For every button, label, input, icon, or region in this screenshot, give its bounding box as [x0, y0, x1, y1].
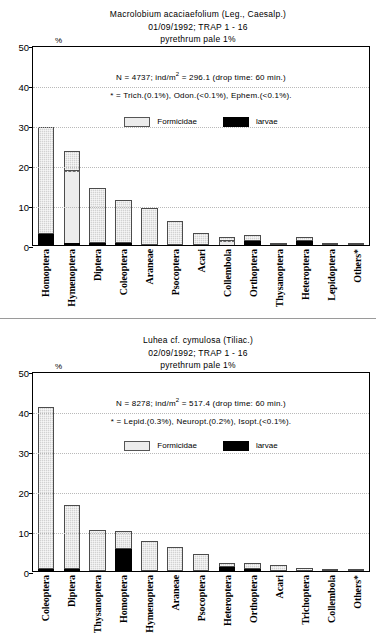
formicidae-swatch-icon	[124, 117, 150, 127]
x-axis-tick-label: Lepidoptera	[326, 249, 337, 301]
x-axis-label-slot: Hymenoptera	[58, 246, 84, 330]
bar-psocoptera[interactable]	[167, 221, 184, 245]
x-axis-tick-label: Diptera	[92, 249, 103, 281]
bar-segment-other	[64, 505, 81, 568]
panel-1-title-line-2: 01/09/1992; TRAP 1 - 16	[20, 21, 376, 34]
bar-segment-other	[322, 569, 339, 571]
legend-label-larvae: larvae	[256, 117, 278, 126]
panel-2-plot-area: % N = 8278; ind/m2 = 517.4 (drop time: 6…	[32, 372, 370, 572]
x-axis-tick-label: Heteroptera	[222, 575, 233, 626]
bar-orthoptera[interactable]	[244, 563, 261, 571]
legend-item-larvae: larvae	[223, 117, 278, 127]
panel-2-x-axis-labels: ColeopteraDipteraThysanopteraHomopteraHy…	[32, 572, 370, 634]
x-axis-tick-label: Homoptera	[40, 249, 51, 297]
panel-2-title-line-3: pyrethrum pale 1%	[20, 359, 376, 372]
y-axis-tick-mark	[29, 167, 33, 168]
bar-psocoptera[interactable]	[193, 554, 210, 571]
y-axis-tick-mark	[29, 373, 33, 374]
y-axis-tick-label: 10	[18, 201, 29, 212]
bar-segment-other	[89, 530, 106, 571]
gridline	[33, 127, 369, 128]
bar-diptera[interactable]	[64, 505, 81, 570]
bar-thysanoptera[interactable]	[270, 243, 287, 245]
chart-panel-luhea: Luhea cf. cymulosa (Tiliac.) 02/09/1992;…	[0, 330, 376, 634]
bar-segment-other	[38, 127, 55, 235]
bar-diptera[interactable]	[89, 188, 106, 244]
y-axis-tick-label: 50	[18, 41, 29, 52]
bar-collembola[interactable]	[219, 237, 236, 245]
bar-thysanoptera[interactable]	[89, 530, 106, 571]
y-axis-tick-label: 30	[18, 447, 29, 458]
bar-araneae[interactable]	[167, 547, 184, 571]
x-axis-tick-label: Homoptera	[118, 575, 129, 623]
y-axis-tick-mark	[29, 87, 33, 88]
bar-segment-other	[167, 547, 184, 571]
bar-heteroptera[interactable]	[296, 237, 313, 244]
x-axis-label-slot: Araneae	[136, 246, 162, 330]
bar-segment-formicidae	[219, 241, 236, 245]
panel-1-annotation-others: * = Trich.(0.1%), Odon.(<0.1%), Ephem.(<…	[33, 91, 369, 100]
x-axis-tick-label: Coleoptera	[40, 575, 51, 621]
bar-lepidoptera[interactable]	[322, 243, 339, 245]
bar-homoptera[interactable]	[38, 127, 55, 245]
bar-coleoptera[interactable]	[38, 407, 55, 571]
panel-1-annotation-n: N = 4737; ind/m2 = 296.1 (drop time: 60 …	[33, 71, 369, 82]
bar-segment-larvae	[64, 243, 81, 245]
bar-segment-other	[348, 569, 365, 571]
x-axis-label-slot: Psocoptera	[188, 572, 214, 634]
bar-segment-larvae	[38, 569, 55, 571]
y-axis-tick-mark	[29, 453, 33, 454]
bar-trichoptera[interactable]	[296, 568, 313, 571]
x-axis-tick-label: Others*	[352, 575, 363, 609]
x-axis-tick-label: Psocoptera	[170, 249, 181, 295]
panel-1-annotation-n-pre: N = 4737; ind/m	[116, 72, 176, 81]
bar-acari[interactable]	[193, 233, 210, 245]
bar-hymenoptera[interactable]	[64, 151, 81, 244]
bar-araneae[interactable]	[141, 208, 158, 244]
larvae-swatch-icon	[223, 117, 249, 127]
bar-segment-other	[89, 188, 106, 242]
y-axis-tick-mark	[29, 493, 33, 494]
bar-segment-larvae	[38, 234, 55, 244]
panel-2-annotation-n-post: = 517.4 (drop time: 60 min.)	[179, 398, 286, 407]
x-axis-label-slot: Coleoptera	[110, 246, 136, 330]
x-axis-label-slot: Araneae	[162, 572, 188, 634]
x-axis-tick-label: Thysanoptera	[274, 249, 285, 307]
panel-divider	[0, 318, 376, 319]
x-axis-label-slot: Others*	[344, 572, 370, 634]
x-axis-label-slot: Thysanoptera	[84, 572, 110, 634]
bar-others[interactable]	[348, 243, 365, 245]
panel-2-y-axis-unit: %	[55, 362, 62, 371]
x-axis-label-slot: Coleoptera	[32, 572, 58, 634]
bar-segment-other	[141, 541, 158, 570]
panel-1-annotation-n-post: = 296.1 (drop time: 60 min.)	[179, 72, 286, 81]
panel-2-annotation-others: * = Lepid.(0.3%), Neuropt.(0.2%), Isopt.…	[33, 417, 369, 426]
panel-1-legend: Formicidae larvae	[33, 117, 369, 127]
x-axis-label-slot: Orthoptera	[240, 572, 266, 634]
panel-2-title-line-1: Luhea cf. cymulosa (Tiliac.)	[20, 334, 376, 347]
bar-others[interactable]	[348, 569, 365, 571]
y-axis-tick-label: 20	[18, 161, 29, 172]
formicidae-swatch-icon	[124, 441, 150, 451]
bar-segment-larvae	[296, 241, 313, 244]
bar-homoptera[interactable]	[115, 531, 132, 571]
x-axis-tick-label: Acari	[196, 249, 207, 272]
x-axis-label-slot: Hymenoptera	[136, 572, 162, 634]
gridline	[33, 533, 369, 534]
bar-segment-other	[193, 554, 210, 571]
bar-collembola[interactable]	[322, 569, 339, 571]
bar-orthoptera[interactable]	[244, 235, 261, 244]
legend-item-formicidae: Formicidae	[124, 117, 197, 127]
panel-1-y-axis-unit: %	[55, 36, 62, 45]
bar-hymenoptera[interactable]	[141, 541, 158, 570]
x-axis-label-slot: Heteroptera	[292, 246, 318, 330]
bar-segment-larvae	[244, 569, 261, 571]
x-axis-tick-label: Orthoptera	[248, 575, 259, 623]
bar-segment-other	[193, 233, 210, 245]
x-axis-tick-label: Heteroptera	[300, 249, 311, 300]
y-axis-tick-mark	[29, 127, 33, 128]
bar-acari[interactable]	[270, 565, 287, 571]
bar-heteroptera[interactable]	[219, 563, 236, 571]
y-axis-tick-label: 20	[18, 487, 29, 498]
x-axis-tick-label: Araneae	[144, 249, 155, 284]
